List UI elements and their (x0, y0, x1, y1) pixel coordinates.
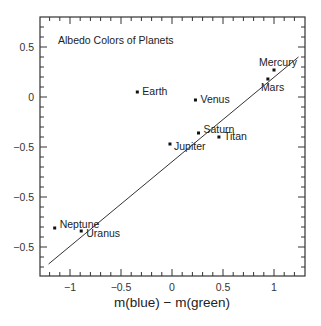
point-label-uranus: Uranus (86, 227, 120, 239)
data-point-venus (194, 99, 197, 102)
data-points: EarthVenusMercuryMarsSaturnTitanJupiterN… (53, 56, 297, 239)
y-tick-label: 0 (28, 91, 34, 103)
albedo-scatter-chart: −1−0.500.510.50−0.5−0.5−0.5 EarthVenusMe… (0, 0, 321, 326)
point-label-mercury: Mercury (259, 56, 298, 68)
data-point-titan (217, 136, 220, 139)
chart-title: Albedo Colors of Planets (58, 34, 174, 46)
y-tick-label: −0.5 (13, 241, 34, 253)
y-tick-label: 0.5 (19, 41, 34, 53)
x-tick-label: 0.5 (216, 281, 231, 293)
data-point-neptune (53, 227, 56, 230)
point-label-jupiter: Jupiter (174, 140, 206, 152)
point-label-venus: Venus (200, 93, 229, 105)
axis-tick-labels: −1−0.500.510.50−0.5−0.5−0.5 (13, 41, 277, 293)
x-axis-label: m(blue) − m(green) (114, 295, 230, 310)
point-label-earth: Earth (142, 85, 167, 97)
y-tick-label: −0.5 (13, 141, 34, 153)
y-tick-label: −0.5 (13, 191, 34, 203)
point-label-mars: Mars (261, 81, 284, 93)
x-tick-label: 1 (271, 281, 277, 293)
data-point-earth (136, 91, 139, 94)
x-tick-label: −1 (64, 281, 76, 293)
x-tick-label: −0.5 (111, 281, 132, 293)
x-tick-label: 0 (169, 281, 175, 293)
point-label-titan: Titan (224, 130, 247, 142)
data-point-mercury (273, 69, 276, 72)
data-point-jupiter (168, 143, 171, 146)
data-point-saturn (197, 132, 200, 135)
data-point-uranus (80, 230, 83, 233)
